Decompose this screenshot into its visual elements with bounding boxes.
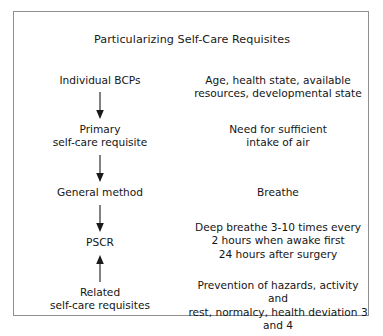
example-text-general-method: Breathe <box>186 186 370 199</box>
diagram-title: Particularizing Self-Care Requisites <box>14 33 370 46</box>
flow-node-pscr: PSCR <box>14 236 186 249</box>
arrow-related-to-pscr <box>94 254 106 282</box>
flow-node-related-self-care-requisites: Related self-care requisites <box>14 286 186 312</box>
example-text-related-self-care-requisites: Prevention of hazards, activity and rest… <box>186 279 370 333</box>
examples-column: Age, health state, available resources, … <box>186 74 370 314</box>
flow-node-individual-bcps: Individual BCPs <box>14 74 186 87</box>
arrow-bcps-to-primary <box>94 92 106 120</box>
diagram-body: Individual BCPs Primary self-care requis… <box>14 74 370 314</box>
arrow-method-to-pscr <box>94 205 106 233</box>
arrow-primary-to-method <box>94 155 106 183</box>
diagram-frame: Particularizing Self-Care Requisites Ind… <box>13 11 369 316</box>
example-text-individual-bcps: Age, health state, available resources, … <box>186 74 370 101</box>
concept-flow-column: Individual BCPs Primary self-care requis… <box>14 74 186 314</box>
flow-node-general-method: General method <box>14 186 186 199</box>
flow-node-primary-self-care-requisite: Primary self-care requisite <box>14 123 186 149</box>
example-text-primary-self-care-requisite: Need for sufficient intake of air <box>186 123 370 150</box>
example-text-pscr: Deep breathe 3-10 times every 2 hours wh… <box>186 221 370 261</box>
